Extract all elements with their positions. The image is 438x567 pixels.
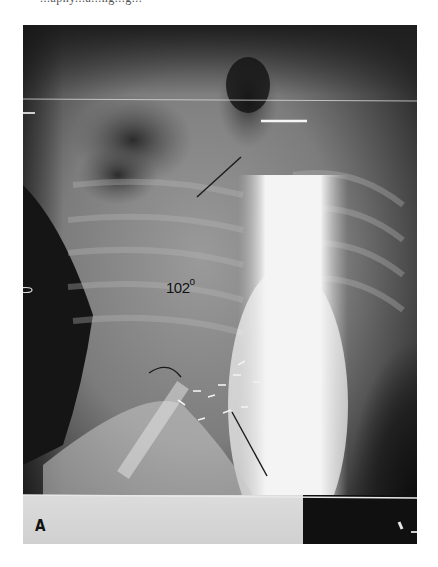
radiograph-image xyxy=(23,25,417,544)
cobb-angle-label: 102o xyxy=(166,278,195,296)
panel-label: A xyxy=(35,516,46,535)
cut-off-caption-text: ...aphy...a...ng...g... xyxy=(40,0,142,6)
cobb-angle-value: 102 xyxy=(166,279,190,296)
radiograph-figure: 102o A xyxy=(23,25,417,544)
degree-symbol: o xyxy=(190,276,195,287)
